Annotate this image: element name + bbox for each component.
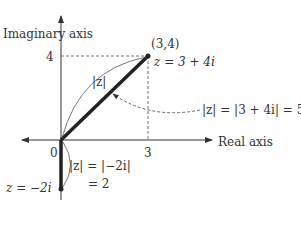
imaginary-axis-label: Imaginary axis xyxy=(3,28,93,40)
point-b-equation: z = −2i xyxy=(6,182,52,194)
vector-3-4i xyxy=(61,56,148,140)
point-neg-2i xyxy=(59,187,64,192)
modulus-annotation: |z| = |3 + 4i| = 5 xyxy=(202,104,301,116)
annotation-arrow xyxy=(113,94,200,113)
point-a-equation: z = 3 + 4i xyxy=(154,56,215,68)
point-b-modulus-line1: |z| = |−2i| xyxy=(69,160,131,172)
point-3-4i xyxy=(146,54,151,59)
origin-label: 0 xyxy=(50,147,58,159)
x-tick-3: 3 xyxy=(144,147,152,159)
point-coords-label: (3,4) xyxy=(151,38,179,50)
segment-modulus-label: |z| xyxy=(92,76,106,88)
real-axis-label: Real axis xyxy=(218,136,273,148)
y-tick-4: 4 xyxy=(46,51,54,63)
point-b-modulus-line2: = 2 xyxy=(88,178,110,190)
